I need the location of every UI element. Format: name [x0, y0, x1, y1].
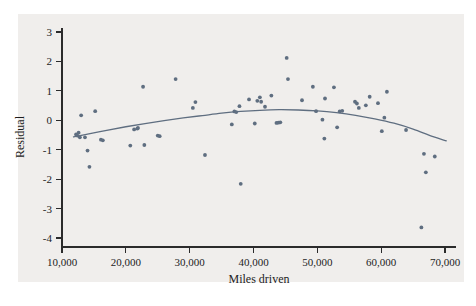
y-tick-label: -4 — [43, 232, 53, 244]
y-tick-label: -3 — [43, 203, 53, 215]
x-tick-label: 20,000 — [111, 256, 142, 268]
y-axis-ticks: 3210-1-2-3-4 — [43, 26, 62, 244]
y-tick-label: 1 — [47, 85, 53, 97]
data-point — [357, 106, 361, 110]
data-point — [269, 94, 273, 98]
data-point — [136, 126, 140, 130]
data-point — [259, 100, 263, 104]
y-tick-label: -2 — [43, 173, 52, 185]
data-point — [194, 100, 198, 104]
y-axis-title: Residual — [13, 115, 27, 158]
x-tick-label: 10,000 — [47, 256, 78, 268]
data-point — [238, 104, 242, 108]
data-point — [128, 144, 132, 148]
data-point — [278, 120, 282, 124]
data-point — [285, 56, 289, 60]
residual-scatter-chart: 3210-1-2-3-4 10,00020,00030,00040,00050,… — [0, 0, 476, 306]
y-tick-label: 3 — [47, 26, 53, 38]
data-point — [203, 153, 207, 157]
data-point — [253, 122, 257, 126]
data-point — [77, 131, 81, 135]
y-tick-label: 2 — [47, 55, 53, 67]
data-point — [335, 125, 339, 129]
x-axis-ticks: 10,00020,00030,00040,00050,00060,00070,0… — [47, 247, 461, 268]
x-tick-label: 40,000 — [238, 256, 269, 268]
data-point — [323, 97, 327, 101]
data-point — [300, 98, 304, 102]
data-point — [376, 101, 380, 105]
data-point — [263, 105, 267, 109]
data-point — [141, 85, 145, 89]
data-point — [314, 109, 318, 113]
data-point — [332, 85, 336, 89]
data-point — [380, 129, 384, 133]
data-point — [93, 109, 97, 113]
data-point — [322, 137, 326, 141]
data-point — [78, 135, 82, 139]
data-point — [158, 134, 162, 138]
data-point — [364, 103, 368, 107]
x-tick-label: 50,000 — [302, 256, 333, 268]
data-point — [404, 128, 408, 132]
data-point — [286, 77, 290, 81]
data-point — [234, 110, 238, 114]
figure-container: 3210-1-2-3-4 10,00020,00030,00040,00050,… — [0, 0, 476, 306]
data-point — [368, 95, 372, 99]
data-point — [382, 116, 386, 120]
data-point — [355, 102, 359, 106]
y-tick-label: -1 — [43, 144, 52, 156]
x-tick-label: 70,000 — [430, 256, 461, 268]
data-point — [239, 182, 243, 186]
data-point — [142, 143, 146, 147]
data-point — [424, 170, 428, 174]
data-point — [230, 123, 234, 127]
data-point — [247, 97, 251, 101]
data-point — [385, 90, 389, 94]
data-point — [321, 118, 325, 122]
data-point — [79, 113, 83, 117]
x-tick-label: 30,000 — [175, 256, 206, 268]
data-point — [258, 95, 262, 99]
data-point — [86, 149, 90, 153]
caption-strip — [0, 292, 476, 306]
data-point — [191, 106, 195, 110]
x-axis-title: Miles driven — [229, 272, 290, 286]
data-point — [83, 135, 87, 139]
data-point — [255, 99, 259, 103]
y-tick-label: 0 — [47, 114, 53, 126]
data-point — [422, 152, 426, 156]
x-tick-label: 60,000 — [366, 256, 397, 268]
data-points-group — [74, 56, 437, 229]
data-point — [311, 85, 315, 89]
data-point — [174, 77, 178, 81]
data-point — [88, 165, 92, 169]
data-point — [433, 155, 437, 159]
fitted-trend-curve — [73, 110, 446, 141]
data-point — [340, 109, 344, 113]
data-point — [132, 128, 136, 132]
data-point — [419, 226, 423, 230]
data-point — [101, 138, 105, 142]
